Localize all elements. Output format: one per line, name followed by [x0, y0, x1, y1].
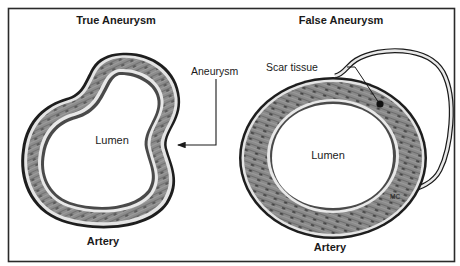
aneurysm-diagram: True Aneurysm False Aneurysm Aneurysm Sc…: [0, 0, 460, 266]
false-aneurysm-title: False Aneurysm: [299, 15, 384, 26]
false-aneurysm-lumen-label: Lumen: [311, 150, 345, 161]
scar-tissue-label: Scar tissue: [266, 62, 318, 73]
scar-tissue-dot: [376, 100, 383, 107]
true-aneurysm-lumen-label: Lumen: [95, 135, 129, 146]
false-aneurysm-artery-label: Artery: [314, 242, 346, 253]
true-aneurysm-title: True Aneurysm: [76, 15, 156, 26]
true-aneurysm-artery-label: Artery: [87, 236, 119, 247]
diagram-canvas: [0, 0, 460, 266]
aneurysm-label: Aneurysm: [191, 66, 238, 77]
mc-label: MC: [390, 194, 400, 201]
